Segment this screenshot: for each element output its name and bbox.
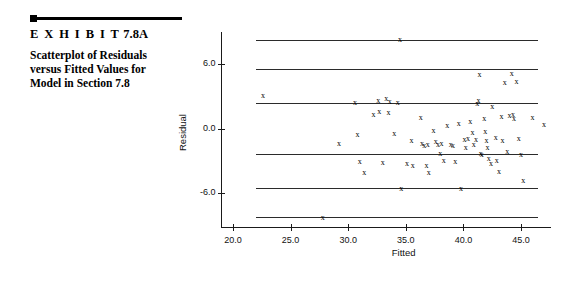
exhibit-description: Scatterplot of Residuals versus Fitted V… bbox=[30, 48, 190, 90]
caption-rule-bar bbox=[36, 17, 182, 20]
data-point-marker: x bbox=[386, 98, 394, 106]
caption-rule bbox=[30, 14, 190, 23]
x-axis-tick-label: 35.0 bbox=[395, 235, 417, 245]
x-axis-tick bbox=[521, 224, 522, 231]
data-point-marker: x bbox=[440, 157, 448, 165]
data-point-marker: x bbox=[424, 141, 432, 149]
caption-line-2: versus Fitted Values for bbox=[30, 62, 190, 76]
data-point-marker: x bbox=[397, 185, 405, 193]
data-point-marker: x bbox=[449, 142, 457, 150]
data-point-marker: x bbox=[353, 131, 361, 139]
data-point-marker: x bbox=[466, 118, 474, 126]
data-point-marker: x bbox=[375, 108, 383, 116]
data-point-marker: x bbox=[394, 99, 402, 107]
data-point-marker: x bbox=[510, 115, 518, 123]
data-point-marker: x bbox=[438, 140, 446, 148]
x-axis-title: Fitted bbox=[392, 247, 416, 258]
x-axis-tick-label: 20.0 bbox=[222, 235, 244, 245]
data-point-marker: x bbox=[499, 137, 507, 145]
data-point-marker: x bbox=[540, 121, 548, 129]
x-axis-tick bbox=[348, 224, 349, 231]
exhibit-label: E X H I B I T 7.8A bbox=[30, 27, 190, 42]
y-axis-tick-label: 0.0 bbox=[185, 123, 215, 133]
data-point-marker: x bbox=[259, 92, 267, 100]
x-axis-tick bbox=[233, 224, 234, 231]
data-point-marker: x bbox=[385, 109, 393, 117]
y-axis-tick-label: -6.0 bbox=[185, 187, 215, 197]
data-point-marker: x bbox=[356, 158, 364, 166]
data-point-marker: x bbox=[488, 103, 496, 111]
data-point-marker: x bbox=[517, 151, 525, 159]
x-axis-tick-label: 45.0 bbox=[510, 235, 532, 245]
x-axis-line bbox=[221, 227, 550, 228]
data-point-marker: x bbox=[476, 71, 484, 79]
x-axis-tick-label: 25.0 bbox=[280, 235, 302, 245]
y-axis-title: Residual bbox=[177, 114, 188, 151]
y-axis-tick bbox=[218, 193, 225, 194]
data-point-marker: x bbox=[335, 140, 343, 148]
y-axis-tick bbox=[218, 129, 225, 130]
exhibit-label-number: 7.8A bbox=[123, 27, 148, 41]
caption-line-1: Scatterplot of Residuals bbox=[30, 48, 190, 62]
data-point-marker: x bbox=[455, 120, 463, 128]
data-point-marker: x bbox=[519, 177, 527, 185]
plot-area: 20.025.030.035.040.045.06.00.0-6.0xxxxxx… bbox=[170, 8, 570, 290]
data-point-marker: x bbox=[474, 97, 482, 105]
y-axis-tick-label: 6.0 bbox=[185, 58, 215, 68]
data-point-marker: x bbox=[396, 36, 404, 44]
reference-line bbox=[256, 69, 538, 70]
data-point-marker: x bbox=[462, 144, 470, 152]
data-point-marker: x bbox=[481, 128, 489, 136]
data-point-marker: x bbox=[495, 168, 503, 176]
data-point-marker: x bbox=[457, 185, 465, 193]
data-point-marker: x bbox=[512, 78, 520, 86]
data-point-marker: x bbox=[443, 122, 451, 130]
data-point-marker: x bbox=[390, 130, 398, 138]
x-axis-tick bbox=[406, 224, 407, 231]
data-point-marker: x bbox=[480, 115, 488, 123]
data-point-marker: x bbox=[379, 159, 387, 167]
data-point-marker: x bbox=[425, 169, 433, 177]
data-point-marker: x bbox=[351, 99, 359, 107]
data-point-marker: x bbox=[451, 158, 459, 166]
residual-scatterplot: 20.025.030.035.040.045.06.00.0-6.0xxxxxx… bbox=[170, 8, 570, 290]
data-point-marker: x bbox=[360, 169, 368, 177]
data-point-marker: x bbox=[501, 79, 509, 87]
x-axis-tick-label: 40.0 bbox=[452, 235, 474, 245]
x-axis-tick bbox=[463, 224, 464, 231]
caption-line-3: Model in Section 7.8 bbox=[30, 76, 190, 90]
data-point-marker: x bbox=[503, 148, 511, 156]
data-point-marker: x bbox=[409, 162, 417, 170]
data-point-marker: x bbox=[529, 114, 537, 122]
x-axis-tick-label: 30.0 bbox=[337, 235, 359, 245]
x-axis-tick bbox=[291, 224, 292, 231]
data-point-marker: x bbox=[408, 137, 416, 145]
data-point-marker: x bbox=[319, 214, 327, 222]
exhibit-label-prefix: E X H I B I T bbox=[30, 27, 120, 41]
y-axis-tick bbox=[218, 64, 225, 65]
data-point-marker: x bbox=[497, 113, 505, 121]
y-axis-line bbox=[221, 32, 222, 228]
data-point-marker: x bbox=[429, 127, 437, 135]
data-point-marker: x bbox=[515, 135, 523, 143]
data-point-marker: x bbox=[472, 136, 480, 144]
data-point-marker: x bbox=[493, 157, 501, 165]
data-point-marker: x bbox=[374, 97, 382, 105]
data-point-marker: x bbox=[484, 144, 492, 152]
data-point-marker: x bbox=[417, 114, 425, 122]
reference-line bbox=[256, 217, 538, 218]
exhibit-caption: E X H I B I T 7.8A Scatterplot of Residu… bbox=[30, 14, 190, 90]
